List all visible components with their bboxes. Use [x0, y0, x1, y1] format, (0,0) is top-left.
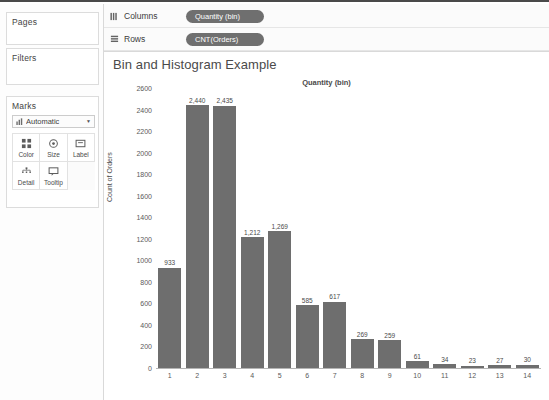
y-axis-tick-label: 1200: [136, 235, 152, 242]
rows-shelf-label: Rows: [124, 34, 186, 44]
bar-value-label: 259: [376, 332, 403, 339]
bar-8[interactable]: [351, 339, 374, 368]
bar-slot: 2,440: [184, 88, 211, 368]
x-axis-tick-label: 13: [486, 372, 513, 379]
bar-value-label: 34: [431, 356, 458, 363]
marks-button-tooltip[interactable]: Tooltip: [40, 162, 67, 190]
bar-value-label: 1,212: [239, 229, 266, 236]
color-palette-icon: [21, 138, 32, 149]
bar-1[interactable]: [158, 268, 181, 368]
bar-slot: 34: [431, 88, 458, 368]
filters-card[interactable]: Filters: [6, 48, 99, 85]
marks-button-detail-label: Detail: [18, 179, 35, 186]
bar-slot: 617: [321, 88, 348, 368]
columns-shelf-label: Columns: [124, 11, 186, 21]
bar-slot: 27: [486, 88, 513, 368]
marks-button-label-label: Label: [73, 151, 89, 158]
marks-button-color[interactable]: Color: [13, 134, 40, 162]
marks-card-title: Marks: [7, 97, 98, 111]
y-axis-ticks: 0200400600800100012001400160018002000220…: [112, 88, 152, 368]
size-circle-icon: [48, 138, 59, 149]
marks-grid-empty-cell: [68, 162, 95, 190]
bar-value-label: 30: [514, 356, 541, 363]
y-axis-tick-label: 200: [140, 343, 152, 350]
y-axis-tick-label: 400: [140, 321, 152, 328]
column-field-header: Quantity (bin): [104, 78, 549, 87]
pages-card-title: Pages: [7, 13, 98, 27]
x-axis-ticks: 1234567891011121314: [156, 370, 541, 384]
bar-9[interactable]: [378, 340, 401, 368]
bar-slot: 269: [349, 88, 376, 368]
bar-value-label: 23: [459, 357, 486, 364]
chevron-down-icon[interactable]: ▼: [86, 119, 91, 124]
x-axis-line: [156, 368, 541, 369]
y-axis-tick-label: 2000: [136, 149, 152, 156]
label-tag-icon: [75, 138, 86, 149]
x-axis-tick-label: 14: [514, 372, 541, 379]
rows-shelf[interactable]: Rows CNT(Orders): [104, 28, 549, 51]
bar-value-label: 1,269: [266, 223, 293, 230]
tableau-worksheet: Pages Filters Marks Automatic ▼: [0, 0, 549, 400]
y-axis-tick-label: 2200: [136, 128, 152, 135]
marks-button-detail[interactable]: Detail: [13, 162, 40, 190]
bar-slot: 1,212: [239, 88, 266, 368]
shelf-area: Columns Quantity (bin) Rows CNT(Orders): [104, 4, 549, 52]
mark-type-value: Automatic: [26, 117, 83, 126]
x-axis-tick-label: 2: [184, 372, 211, 379]
bar-7[interactable]: [323, 302, 346, 368]
chart-canvas: Bin and Histogram Example Quantity (bin)…: [104, 52, 549, 400]
x-axis-tick-label: 11: [431, 372, 458, 379]
top-border-rule: [0, 0, 549, 2]
x-axis-tick-label: 10: [404, 372, 431, 379]
marks-card[interactable]: Marks Automatic ▼: [6, 96, 99, 208]
x-axis-tick-label: 9: [376, 372, 403, 379]
filters-card-title: Filters: [7, 49, 98, 63]
bar-chart-icon: [16, 118, 23, 125]
bar-value-label: 617: [321, 293, 348, 300]
page-title: Bin and Histogram Example: [113, 57, 277, 72]
bar-5[interactable]: [268, 231, 291, 368]
pages-card[interactable]: Pages: [6, 12, 99, 45]
x-axis-tick-label: 8: [349, 372, 376, 379]
marks-button-label[interactable]: Label: [68, 134, 95, 162]
x-axis-tick-label: 6: [294, 372, 321, 379]
bar-slot: 61: [404, 88, 431, 368]
x-axis-tick-label: 1: [156, 372, 183, 379]
x-axis-tick-label: 12: [459, 372, 486, 379]
pill-quantity-bin[interactable]: Quantity (bin): [186, 10, 264, 23]
bar-value-label: 27: [486, 357, 513, 364]
marks-button-size[interactable]: Size: [40, 134, 67, 162]
columns-grid-icon: [110, 12, 119, 21]
mark-type-dropdown[interactable]: Automatic ▼: [12, 115, 95, 128]
marks-button-size-label: Size: [47, 151, 60, 158]
bar-value-label: 585: [294, 297, 321, 304]
y-axis-tick-label: 800: [140, 278, 152, 285]
y-axis-tick-label: 1000: [136, 257, 152, 264]
bar-value-label: 2,435: [211, 97, 238, 104]
bar-slot: 23: [459, 88, 486, 368]
tooltip-bubble-icon: [48, 166, 59, 177]
bar-3[interactable]: [213, 106, 236, 368]
bar-value-label: 269: [349, 331, 376, 338]
bar-slot: 1,269: [266, 88, 293, 368]
detail-dots-icon: [21, 166, 32, 177]
bar-6[interactable]: [296, 305, 319, 368]
x-axis-tick-label: 7: [321, 372, 348, 379]
y-axis-tick-label: 1400: [136, 214, 152, 221]
bar-slot: 2,435: [211, 88, 238, 368]
bar-2[interactable]: [186, 105, 209, 368]
y-axis-tick-label: 0: [148, 365, 152, 372]
pill-cnt-orders[interactable]: CNT(Orders): [186, 33, 264, 46]
bar-slot: 259: [376, 88, 403, 368]
y-axis-tick-label: 2400: [136, 106, 152, 113]
y-axis-tick-label: 1800: [136, 171, 152, 178]
bar-value-label: 2,440: [184, 97, 211, 104]
y-axis-tick-label: 600: [140, 300, 152, 307]
bar-value-label: 61: [404, 353, 431, 360]
marks-button-color-label: Color: [18, 151, 34, 158]
bar-4[interactable]: [241, 237, 264, 368]
x-axis-tick-label: 3: [211, 372, 238, 379]
y-axis-tick-label: 2600: [136, 85, 152, 92]
bar-slot: 933: [156, 88, 183, 368]
columns-shelf[interactable]: Columns Quantity (bin): [104, 5, 549, 28]
